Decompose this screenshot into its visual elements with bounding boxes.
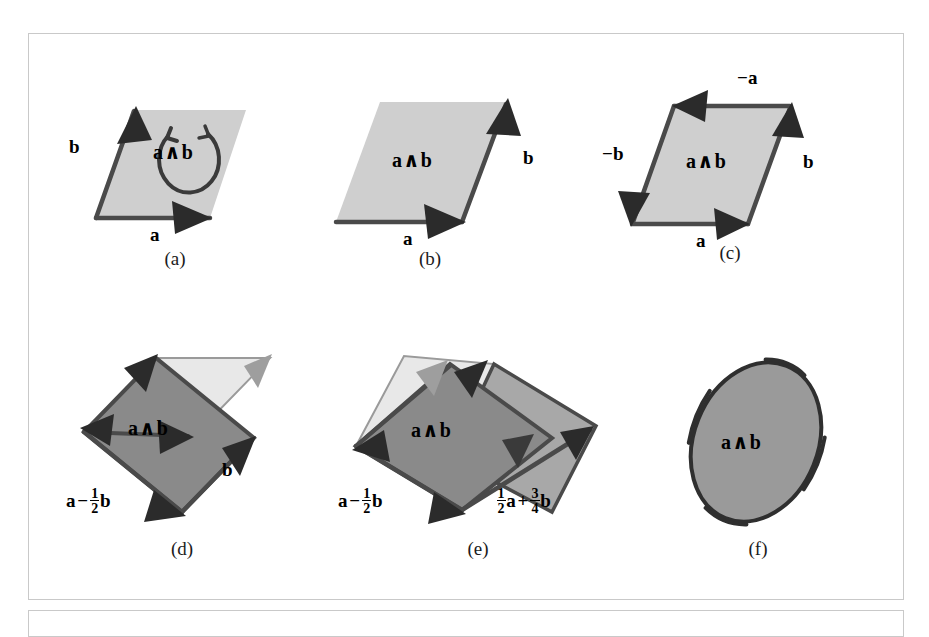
panel-d-area-label: a∧b bbox=[128, 418, 168, 438]
panel-d-artwork bbox=[62, 340, 302, 570]
lower-frame bbox=[28, 610, 904, 637]
panel-a-area-label: a∧b bbox=[153, 142, 193, 162]
panel-c-label-minus-b: −b bbox=[602, 144, 624, 163]
panel-c-label-minus-a: −a bbox=[737, 68, 758, 87]
panel-c-caption: (c) bbox=[600, 242, 860, 264]
panel-d-label-a-minus-half-b: a−12b bbox=[66, 486, 111, 516]
panel-b-label-b: b bbox=[523, 148, 534, 167]
wedge-symbol: ∧ bbox=[421, 419, 439, 441]
panel-e-artwork bbox=[338, 340, 618, 570]
panel-c-artwork bbox=[600, 60, 860, 270]
panel-f: a∧b (f) bbox=[648, 350, 868, 570]
plus-sign: + bbox=[516, 490, 530, 511]
wedge-symbol: ∧ bbox=[163, 141, 181, 163]
wedge-symbol: ∧ bbox=[402, 149, 420, 171]
panel-c-label-b: b bbox=[803, 152, 814, 171]
fraction-one-half: 12 bbox=[362, 486, 371, 516]
panel-e-label-half-a-plus-three-quarter-b: 12a+34b bbox=[496, 486, 551, 516]
panel-b-label-a: a bbox=[403, 229, 413, 248]
panel-c-area-label: a∧b bbox=[686, 151, 726, 171]
panel-a-label-a: a bbox=[150, 225, 160, 244]
minus-sign: − bbox=[348, 490, 362, 511]
panel-d-caption: (d) bbox=[62, 538, 302, 560]
panel-b-area-label: a∧b bbox=[392, 150, 432, 170]
panel-e: a∧b a−12b 12a+34b (e) bbox=[338, 340, 618, 570]
wedge-symbol: ∧ bbox=[138, 417, 156, 439]
panel-b: a∧b b a (b) bbox=[310, 70, 550, 270]
wedge-symbol: ∧ bbox=[731, 431, 749, 453]
panel-d-label-b: b bbox=[222, 460, 233, 479]
panel-f-artwork bbox=[648, 350, 868, 570]
panel-f-area-label: a∧b bbox=[721, 432, 761, 452]
panel-a-caption: (a) bbox=[60, 248, 290, 270]
panel-b-caption: (b) bbox=[310, 248, 550, 270]
panel-e-caption: (e) bbox=[338, 538, 618, 560]
panel-c: a∧b a b −a −b (c) bbox=[600, 60, 860, 270]
panel-a-artwork bbox=[60, 70, 290, 270]
wedge-symbol: ∧ bbox=[696, 150, 714, 172]
panel-f-caption: (f) bbox=[648, 538, 868, 560]
panel-e-label-a-minus-half-b: a−12b bbox=[338, 486, 383, 516]
fraction-three-quarters: 34 bbox=[530, 486, 539, 516]
minus-sign: − bbox=[76, 490, 90, 511]
panel-a: a∧b b a (a) bbox=[60, 70, 290, 270]
fraction-one-half: 12 bbox=[90, 486, 99, 516]
panel-d: a∧b b a−12b (d) bbox=[62, 340, 302, 570]
fraction-one-half: 12 bbox=[497, 486, 506, 516]
panel-a-label-b: b bbox=[69, 137, 80, 156]
panel-e-area-label: a∧b bbox=[411, 420, 451, 440]
